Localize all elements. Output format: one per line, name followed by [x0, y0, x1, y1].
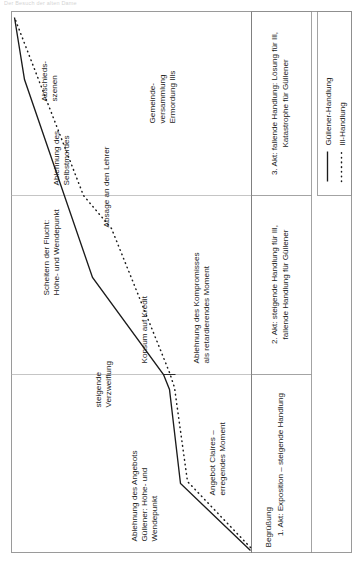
diagram-canvas: Begrüßung Angebot Claires – erregendes M…: [11, 11, 352, 553]
legend-svg: [11, 11, 352, 553]
legend-label-guellener: Güllener-Handlung: [322, 77, 333, 145]
legend-label-ill: Ill-Handlung: [336, 102, 347, 145]
plot-area: Begrüßung Angebot Claires – erregendes M…: [11, 11, 352, 553]
diagram-rotated-wrapper: Begrüßung Angebot Claires – erregendes M…: [11, 11, 352, 553]
page-header-strip: Der Besuch der alten Dame: [4, 0, 154, 7]
